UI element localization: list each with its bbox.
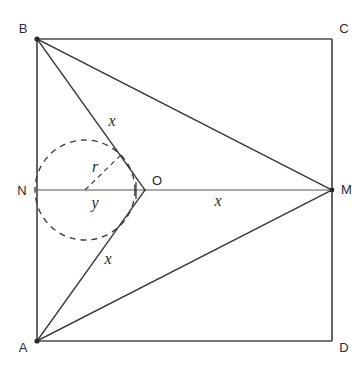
segment-AO [37, 190, 145, 341]
vertex-label-o: O [152, 173, 162, 188]
geometry-diagram-canvas: B C A D N M O x x x r y [0, 0, 363, 378]
measure-label-x-right: x [213, 192, 221, 209]
vertex-label-m: M [341, 182, 352, 197]
measure-label-x-upper: x [107, 112, 115, 129]
segment-BM [37, 39, 332, 190]
measure-label-x-lower: x [103, 250, 111, 267]
radius-line [85, 155, 121, 190]
measure-label-r: r [92, 158, 99, 175]
vertex-dot-a [34, 338, 39, 343]
vertex-dot-b [34, 36, 39, 41]
segment-AM [37, 190, 332, 341]
vertex-dot-m [330, 188, 335, 193]
vertex-label-a: A [19, 340, 28, 355]
vertex-label-c: C [339, 21, 348, 36]
measure-label-y: y [89, 194, 99, 212]
vertex-label-n: N [17, 183, 26, 198]
vertex-label-d: D [339, 340, 348, 355]
geometry-figure: B C A D N M O x x x r y [0, 0, 363, 378]
vertex-label-b: B [19, 21, 28, 36]
